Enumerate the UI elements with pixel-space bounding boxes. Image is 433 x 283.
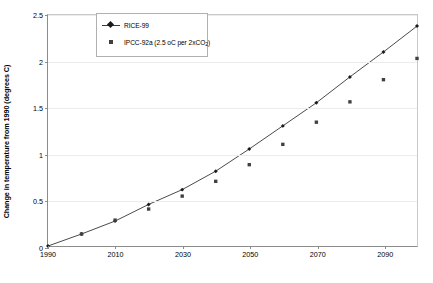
legend-label-ipcc-92a: IPCC-92a (2.5 oC per 2xCO2) <box>124 39 210 46</box>
x-tick-mark <box>48 246 49 249</box>
x-tick-label: 2050 <box>242 250 258 259</box>
y-tick-label: 2 <box>39 57 43 66</box>
y-axis-title: Change in temperature from 1990 (degrees… <box>0 0 14 283</box>
data-point-ipcc-92a <box>348 100 351 103</box>
data-point-ipcc-92a <box>180 194 183 197</box>
x-tick-label: 2030 <box>175 250 191 259</box>
data-point-rice-99 <box>180 188 184 192</box>
legend-key-square-icon <box>101 37 121 47</box>
y-tick-mark <box>45 62 48 63</box>
gridline <box>48 201 417 202</box>
y-tick-label: 1 <box>39 150 43 159</box>
x-tick-label: 2010 <box>107 250 123 259</box>
legend-label-ipcc-suffix: ) <box>208 39 210 46</box>
legend-label-ipcc-prefix: IPCC-92a (2.5 oC per 2xCO <box>124 39 205 46</box>
data-point-ipcc-92a <box>214 180 217 183</box>
chart-container: Change in temperature from 1990 (degrees… <box>0 0 433 283</box>
legend-label-rice-99: RICE-99 <box>124 22 149 29</box>
data-point-ipcc-92a <box>315 120 318 123</box>
data-point-rice-99 <box>147 202 151 206</box>
x-tick-mark <box>385 246 386 249</box>
chart-legend: RICE-99 IPCC-92a (2.5 oC per 2xCO2) <box>96 13 208 57</box>
y-tick-mark <box>45 201 48 202</box>
x-tick-mark <box>318 246 319 249</box>
x-tick-label: 1990 <box>40 250 56 259</box>
x-tick-label: 2070 <box>310 250 326 259</box>
x-tick-mark <box>183 246 184 249</box>
gridline <box>48 62 417 63</box>
x-tick-mark <box>115 246 116 249</box>
legend-entry-ipcc-92a: IPCC-92a (2.5 oC per 2xCO2) <box>101 36 210 48</box>
series-line-rice-99 <box>48 26 417 246</box>
data-point-ipcc-92a <box>415 57 418 60</box>
x-tick-label: 2090 <box>377 250 393 259</box>
legend-label-ipcc-subscript: 2 <box>205 41 208 47</box>
y-tick-mark <box>45 108 48 109</box>
data-point-ipcc-92a <box>113 218 116 221</box>
legend-key-line-diamond-icon <box>101 20 121 30</box>
data-point-ipcc-92a <box>80 232 83 235</box>
legend-entry-rice-99: RICE-99 <box>101 19 149 31</box>
gridline <box>48 155 417 156</box>
gridline <box>48 108 417 109</box>
data-point-ipcc-92a <box>382 78 385 81</box>
y-tick-label: 0.5 <box>33 197 43 206</box>
x-tick-mark <box>250 246 251 249</box>
y-tick-mark <box>45 155 48 156</box>
data-point-ipcc-92a <box>281 143 284 146</box>
y-tick-label: 1.5 <box>33 104 43 113</box>
y-tick-mark <box>45 15 48 16</box>
y-tick-label: 2.5 <box>33 11 43 20</box>
data-point-ipcc-92a <box>248 163 251 166</box>
data-point-ipcc-92a <box>147 207 150 210</box>
